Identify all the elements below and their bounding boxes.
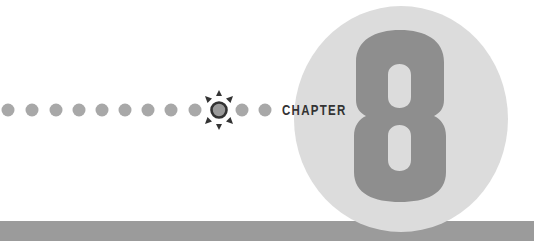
dots-before-marker — [2, 104, 202, 117]
dot — [26, 104, 39, 117]
dot — [96, 104, 109, 117]
dot — [189, 104, 202, 117]
dot — [142, 104, 155, 117]
dot — [236, 104, 249, 117]
dot — [50, 104, 63, 117]
sunburst-ring-icon — [205, 90, 233, 130]
dot — [165, 104, 178, 117]
dot — [2, 104, 15, 117]
chapter-label: CHAPTER — [282, 102, 347, 118]
dot-row — [0, 0, 534, 241]
dots-after-marker — [236, 104, 272, 117]
dot — [259, 104, 272, 117]
dot — [73, 104, 86, 117]
dot — [119, 104, 132, 117]
